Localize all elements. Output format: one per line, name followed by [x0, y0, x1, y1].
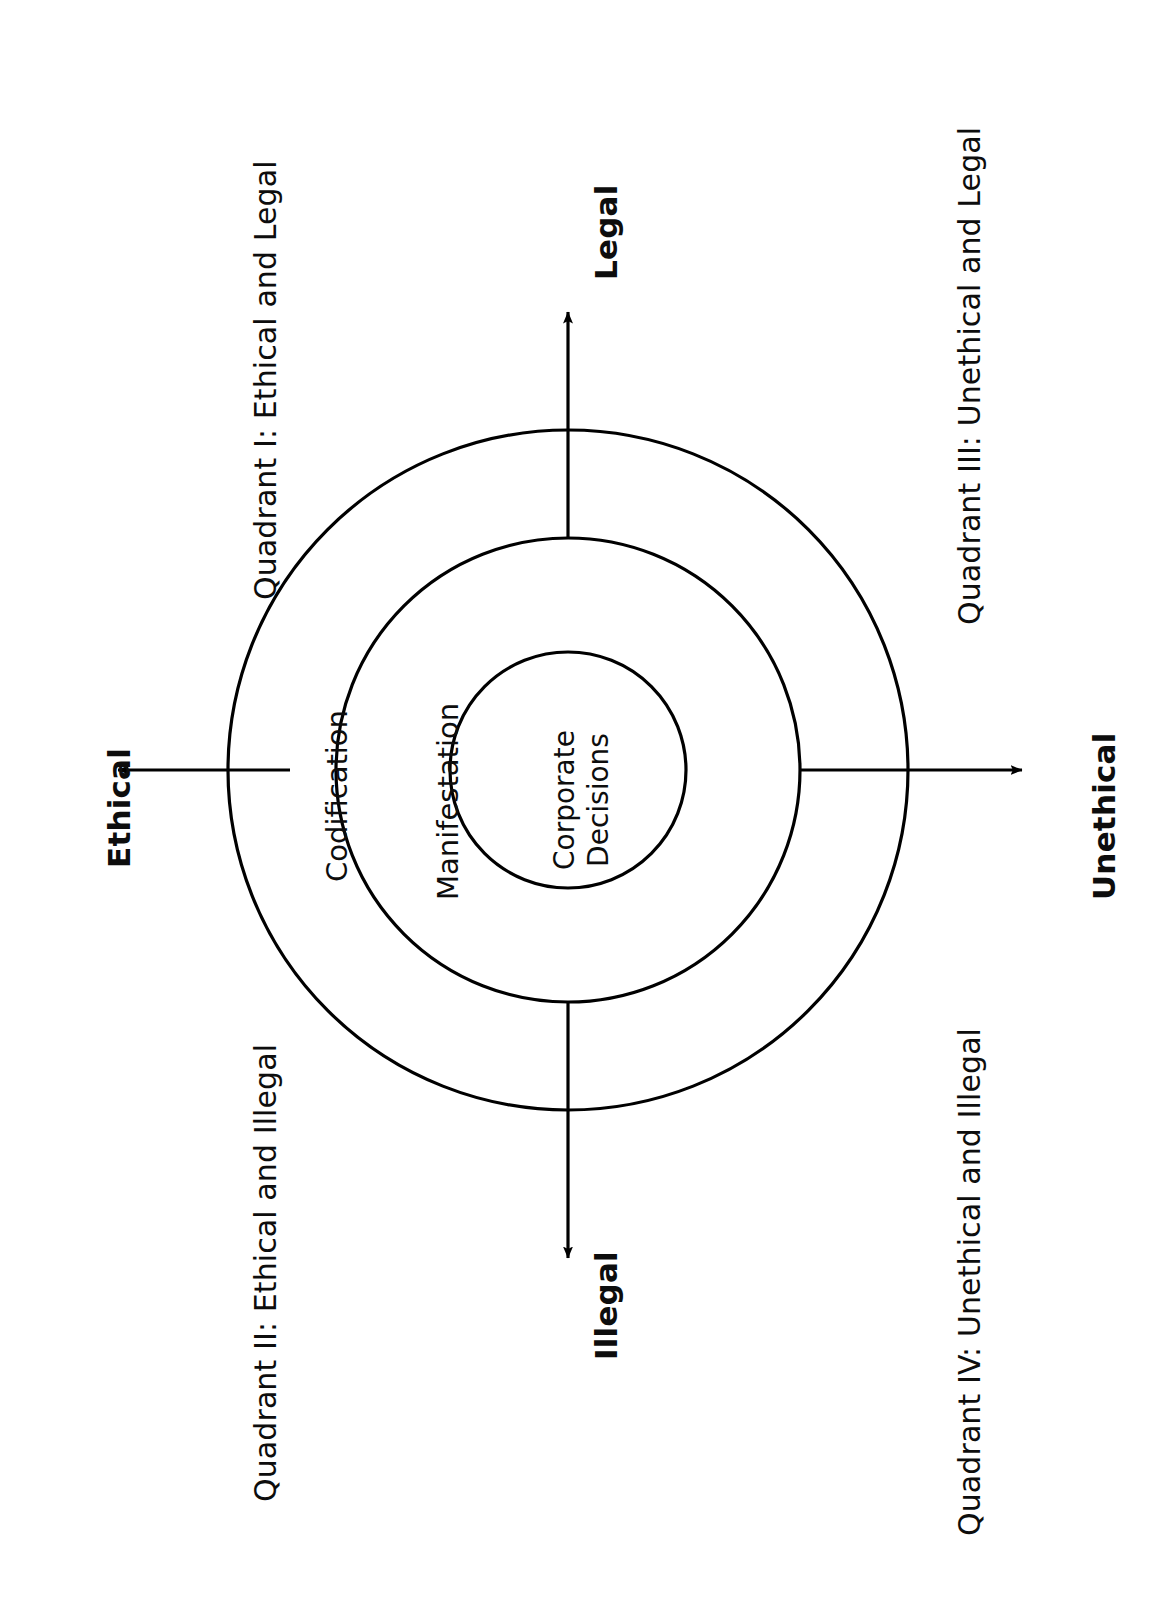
center-label-line-1: Corporate	[548, 730, 581, 870]
quadrant-label-3: Quadrant III: Unethical and Legal	[952, 127, 987, 625]
axis-label-unethical: Unethical	[1086, 732, 1123, 900]
quadrant-label-2: Quadrant II: Ethical and Illegal	[248, 1044, 283, 1502]
quadrant-label-4: Quadrant IV: Unethical and Illegal	[952, 1028, 987, 1536]
center-label-line-2: Decisions	[582, 730, 616, 870]
axis-label-illegal: Illegal	[588, 1251, 625, 1360]
ring-label-codification: Codification	[320, 710, 354, 882]
axis-label-ethical: Ethical	[101, 748, 138, 868]
axis-label-legal: Legal	[588, 184, 625, 280]
quadrant-label-1: Quadrant I: Ethical and Legal	[248, 160, 283, 600]
center-label-corporate-decisions: Corporate Decisions	[548, 730, 616, 870]
ring-label-manifestation: Manifestation	[431, 703, 465, 900]
diagram-page: Quadrant I: Ethical and Legal Quadrant I…	[0, 0, 1160, 1618]
